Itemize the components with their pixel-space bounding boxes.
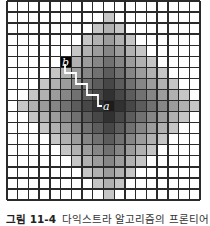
node-label-b: b (62, 57, 69, 68)
grid-line (7, 177, 200, 178)
grid-line (7, 89, 200, 90)
grid-line (7, 78, 200, 79)
dijkstra-frontier-figure: ba 그림 11-4다익스트라 알고리즘의 프론티어 방울 (0, 0, 210, 226)
caption-text: 다익스트라 알고리즘의 프론티어 방울 (62, 213, 210, 225)
grid-line (7, 122, 200, 123)
grid-line (7, 188, 200, 189)
grid-line (7, 45, 200, 46)
grid-line (7, 166, 200, 167)
grid-line (7, 11, 200, 12)
grid-line (7, 22, 200, 23)
grid-line (7, 56, 200, 57)
grid-line (7, 199, 200, 200)
grid-line (7, 67, 200, 68)
grid-line (7, 33, 200, 34)
figure-caption: 그림 11-4다익스트라 알고리즘의 프론티어 방울 (6, 212, 210, 226)
grid-line (7, 133, 200, 134)
grid-line (7, 0, 200, 1)
figure-number: 그림 11-4 (6, 213, 56, 225)
grid-line (7, 144, 200, 145)
node-label-a: a (103, 101, 110, 112)
grid-line (7, 155, 200, 156)
